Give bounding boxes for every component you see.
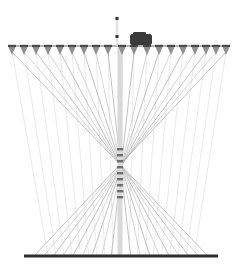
hanger-marker	[130, 46, 138, 55]
mast-rung	[117, 196, 123, 198]
drop-line	[137, 52, 147, 256]
hanger-marker-cap	[20, 45, 28, 47]
mast-rung	[117, 184, 123, 186]
hanger-marker	[104, 46, 112, 55]
drop-line	[96, 52, 105, 256]
mast-rung	[117, 148, 123, 150]
dark-object-body	[130, 34, 152, 45]
hanger-marker	[155, 46, 163, 55]
mast-rung	[117, 154, 123, 156]
hanger-marker-cap	[118, 45, 126, 47]
hanger-marker-cap	[92, 45, 100, 47]
cable-stay	[12, 52, 208, 256]
hanger-marker	[80, 46, 88, 55]
hanger-marker-cap	[179, 45, 187, 47]
mast-rung	[117, 190, 123, 192]
cable-stay	[82, 52, 171, 256]
hanger-marker-cap	[104, 45, 112, 47]
dark-object-top	[133, 32, 146, 35]
hanger-marker	[56, 46, 64, 55]
drop-line	[145, 52, 159, 256]
cable-stay	[72, 52, 160, 256]
hanger-marker	[8, 46, 16, 55]
pole-mid-knob	[116, 35, 119, 38]
hanger-marker	[32, 46, 40, 55]
cable-stay	[48, 52, 179, 256]
cable-stay	[63, 52, 195, 256]
drop-line	[170, 52, 195, 256]
dark-object-leg	[146, 45, 149, 47]
drop-line	[178, 52, 206, 256]
elevation-drawing	[0, 0, 238, 277]
hanger-marker	[202, 46, 210, 55]
hanger-marker-cap	[167, 45, 175, 47]
cable-stay	[73, 52, 183, 256]
hanger-marker-cap	[68, 45, 76, 47]
diagram-canvas: Cable-stayed structure elevation	[0, 0, 238, 277]
hanger-marker-cap	[191, 45, 199, 47]
dark-object	[130, 32, 152, 47]
hanger-marker-cap	[80, 45, 88, 47]
hanger-marker-cap	[32, 45, 40, 47]
hanger-marker-cap	[155, 45, 163, 47]
hanger-marker	[20, 46, 28, 55]
hanger-marker-cap	[44, 45, 52, 47]
hanger-marker	[68, 46, 76, 55]
hanger-marker	[191, 46, 199, 55]
hanger-marker	[222, 46, 230, 55]
hanger-marker	[212, 46, 220, 55]
hanger-marker-cap	[222, 45, 230, 47]
cable-stay	[92, 52, 159, 256]
drop-line	[153, 52, 171, 256]
signal-pole	[116, 16, 118, 46]
drop-line	[194, 52, 226, 256]
hanger-marker	[167, 46, 175, 55]
dark-object-leg	[133, 45, 136, 47]
hanger-marker-cap	[212, 45, 220, 47]
mast-rung	[117, 160, 123, 162]
mast-rung	[117, 172, 123, 174]
hanger-marker	[92, 46, 100, 55]
hanger-marker	[179, 46, 187, 55]
hanger-marker-cap	[56, 45, 64, 47]
mast-rung	[117, 178, 123, 180]
hanger-marker-cap	[202, 45, 210, 47]
drop-line	[12, 52, 48, 256]
pole-top-knob	[116, 17, 119, 20]
central-mast	[118, 46, 123, 256]
hanger-marker	[143, 46, 151, 55]
hanger-marker-cap	[8, 45, 16, 47]
mast-rung	[117, 166, 123, 168]
hanger-marker	[44, 46, 52, 55]
